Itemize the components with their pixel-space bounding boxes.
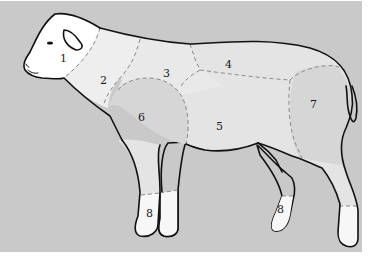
cut-label-2: 2 bbox=[100, 74, 107, 87]
cut-label-3: 3 bbox=[163, 67, 170, 80]
cut-label-7: 7 bbox=[310, 98, 317, 111]
cut-label-6: 6 bbox=[138, 111, 145, 124]
near-hind-hoof bbox=[338, 206, 358, 247]
cut-label-5: 5 bbox=[216, 120, 223, 133]
cut-label-8-front: 8 bbox=[146, 207, 153, 220]
leg-cut-region bbox=[290, 65, 352, 165]
far-front-hoof bbox=[159, 190, 178, 237]
lamb-cuts-diagram: 1 2 3 4 5 6 7 8 8 bbox=[0, 0, 374, 258]
cut-label-1: 1 bbox=[60, 52, 67, 65]
cut-label-8-hind: 8 bbox=[277, 203, 284, 216]
cut-label-4: 4 bbox=[225, 58, 232, 71]
eye-icon bbox=[47, 41, 53, 44]
